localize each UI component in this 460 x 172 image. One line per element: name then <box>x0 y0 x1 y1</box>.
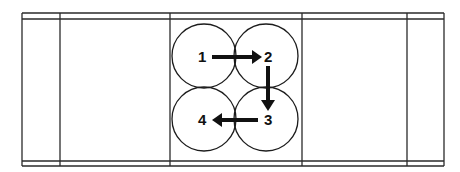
table-frame <box>22 13 444 166</box>
sequence-diagram: 1 2 3 4 <box>0 0 460 172</box>
arrow-right-icon <box>212 50 262 64</box>
step-label-1: 1 <box>198 48 206 65</box>
step-label-2: 2 <box>264 48 272 65</box>
step-label-4: 4 <box>198 111 207 128</box>
step-circles <box>172 24 298 151</box>
step-label-3: 3 <box>264 111 272 128</box>
